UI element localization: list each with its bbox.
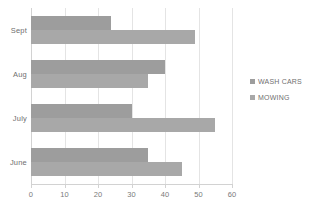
y-axis-label-june: June [10, 158, 27, 167]
x-axis-tick [65, 184, 66, 188]
x-axis-tick-label: 60 [228, 190, 237, 199]
x-axis-tick-label: 50 [194, 190, 203, 199]
x-axis-tick [165, 184, 166, 188]
x-axis-tick [199, 184, 200, 188]
gridline [232, 8, 233, 184]
gridline [199, 8, 200, 184]
bar-aug-mowing [31, 74, 148, 88]
x-axis-tick [98, 184, 99, 188]
legend: WASH CARSMOWING [250, 78, 312, 110]
y-axis-label-aug: Aug [13, 70, 27, 79]
x-axis-tick-label: 10 [60, 190, 69, 199]
x-axis-tick-label: 30 [127, 190, 136, 199]
legend-label: WASH CARS [258, 78, 302, 85]
bar-sept-wash-cars [31, 16, 111, 30]
bar-june-mowing [31, 162, 182, 176]
legend-square-icon [250, 79, 255, 84]
legend-item-wash-cars[interactable]: WASH CARS [250, 78, 312, 85]
legend-square-icon [250, 95, 255, 100]
x-axis-tick-label: 40 [161, 190, 170, 199]
x-axis-tick [132, 184, 133, 188]
bar-sept-mowing [31, 30, 195, 44]
bar-aug-wash-cars [31, 60, 165, 74]
x-axis-tick [232, 184, 233, 188]
legend-item-mowing[interactable]: MOWING [250, 94, 312, 101]
bar-chart: 0102030405060 SeptAugJulyJune WASH CARSM… [0, 0, 312, 210]
bar-june-wash-cars [31, 148, 148, 162]
bar-july-wash-cars [31, 104, 132, 118]
plot-area [31, 8, 232, 184]
x-axis-tick-label: 0 [29, 190, 33, 199]
bar-july-mowing [31, 118, 215, 132]
x-axis-tick [31, 184, 32, 188]
legend-label: MOWING [258, 94, 290, 101]
y-axis-label-sept: Sept [11, 26, 27, 35]
page-caption-fragment [0, 204, 312, 210]
x-axis-tick-label: 20 [94, 190, 103, 199]
y-axis-label-july: July [13, 114, 27, 123]
